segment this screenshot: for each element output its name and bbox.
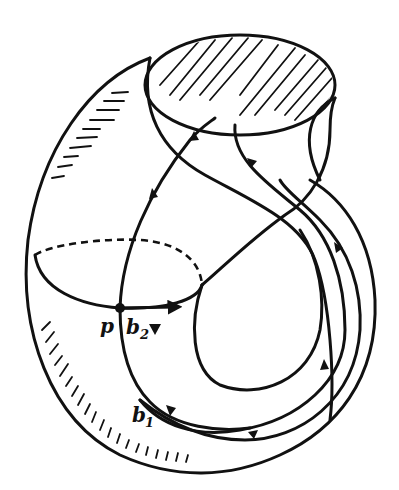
arrow-b1-down-icon [149,324,161,335]
meridian-ellipse-solid-front [35,255,202,308]
label-b2-subscript: 2 [139,327,149,342]
label-b1: b [132,403,146,427]
meridian-ellipse-dashed-back [35,240,202,285]
meridian-ellipse [35,240,202,309]
curve-b1-loop [120,180,360,440]
hatched-top-disk [145,35,340,135]
direction-arrows [149,131,343,439]
base-point-p [115,303,125,313]
arrow-right-lower-icon [320,359,329,370]
label-p: p [100,314,114,338]
surface-diagram: p b 2 b 1 [0,0,399,490]
label-b1-subscript: 1 [145,415,154,430]
label-b2: b [126,315,140,339]
arrow-bottom-icon [248,430,258,439]
